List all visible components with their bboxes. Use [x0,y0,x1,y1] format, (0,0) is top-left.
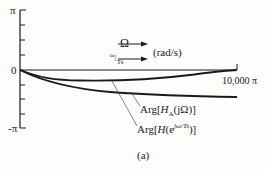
omega-small: ω [110,51,115,59]
arg-prefix: Arg[ [140,103,161,115]
annotation-arg-ha: Arg[HA(jΩ)] [140,104,196,115]
curve-arg-h-digital [20,70,237,81]
ts-sub: Ts [117,58,124,66]
x-units-label: (rad/s) [153,47,182,58]
arg-prefix: Arg[ [137,123,158,135]
exp-close: )] [189,123,196,135]
y-tick-label-neg-pi: -π [8,123,17,134]
h-symbol: H [161,103,169,115]
annotation-arg-h-digital: Arg[H(ejω/Ts)] [137,124,196,135]
y-tick-label-zero: 0 [11,65,17,76]
ha-argument: (jΩ)] [174,103,196,115]
y-tick-label-pi: π [10,5,16,16]
omega-symbol: Ω [120,38,129,49]
h-symbol: H [158,123,166,135]
figure-caption: (a) [137,150,149,161]
y-ticks [20,10,26,128]
omega-over-ts: ω/Ts [110,53,123,64]
exp-superscript: jω/Ts [174,122,189,130]
exp-open: (e [166,123,175,135]
leader-arg-h-digital [112,81,137,126]
x-end-tick-label: 10,000 π [222,75,257,86]
